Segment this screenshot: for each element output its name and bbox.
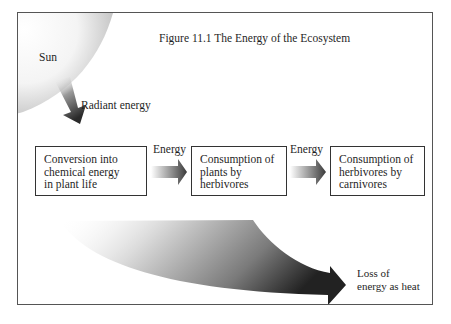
energy-label-2: Energy [290, 143, 323, 156]
box-line: chemical energy [44, 166, 146, 179]
box-line: carnivores [339, 178, 424, 191]
sun-label: Sun [39, 51, 57, 64]
figure-title: Figure 11.1 The Energy of the Ecosystem [159, 32, 350, 45]
box-carnivore-consumption: Consumption of herbivores by carnivores [330, 146, 425, 196]
box-herbivore-consumption: Consumption of plants by herbivores [191, 146, 287, 196]
box-line: Conversion into [44, 153, 146, 166]
box-line: Consumption of [200, 153, 286, 166]
box-line: in plant life [44, 178, 146, 191]
box-line: herbivores [200, 178, 286, 191]
box-plant-conversion: Conversion into chemical energy in plant… [35, 146, 147, 196]
box-line: herbivores by [339, 166, 424, 179]
heat-loss-arrow [60, 220, 346, 305]
heat-loss-label-line1: Loss of [357, 267, 390, 280]
figure-frame: Figure 11.1 The Energy of the Ecosystem … [17, 12, 433, 305]
box-line: Consumption of [339, 153, 424, 166]
box-line: plants by [200, 166, 286, 179]
heat-loss-label-line2: energy as heat [357, 280, 420, 293]
radiant-energy-label: Radiant energy [81, 99, 151, 112]
energy-arrow-2 [290, 159, 326, 185]
energy-label-1: Energy [153, 143, 186, 156]
energy-arrow-1 [151, 159, 187, 185]
